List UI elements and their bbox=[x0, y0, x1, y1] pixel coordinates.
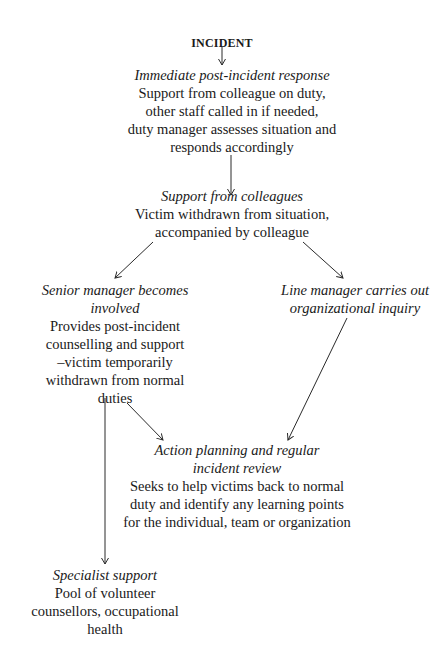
edge-senior-to-action bbox=[127, 403, 163, 440]
node-title-line: incident review bbox=[112, 459, 362, 477]
edge-colleagues-to-senior bbox=[115, 242, 153, 278]
edge-line-manager-to-action bbox=[288, 318, 347, 440]
root-node-incident: INCIDENT bbox=[172, 34, 272, 52]
node-text-line: accompanied by colleague bbox=[112, 223, 352, 241]
node-title-line: involved bbox=[20, 299, 210, 317]
node-text-line: duty manager assesses situation and bbox=[92, 120, 372, 138]
node-line-manager: Line manager carries out organizational … bbox=[275, 281, 435, 317]
node-text-line: for the individual, team or organization bbox=[112, 513, 362, 531]
node-text-line: counsellors, occupational bbox=[25, 602, 185, 620]
node-text-line: withdrawn from normal bbox=[20, 371, 210, 389]
node-title-line: Senior manager becomes bbox=[20, 281, 210, 299]
node-title-line: organizational inquiry bbox=[275, 299, 435, 317]
node-text-line: health bbox=[25, 620, 185, 638]
node-title-line: Line manager carries out bbox=[275, 281, 435, 299]
node-title: Specialist support bbox=[25, 566, 185, 584]
node-immediate-response: Immediate post-incident response Support… bbox=[92, 66, 372, 156]
node-text-line: counselling and support bbox=[20, 335, 210, 353]
root-label: INCIDENT bbox=[191, 36, 253, 50]
node-title: Immediate post-incident response bbox=[92, 66, 372, 84]
edge-colleagues-to-line-manager bbox=[303, 242, 343, 278]
node-action-planning: Action planning and regular incident rev… bbox=[112, 441, 362, 531]
node-text-line: Support from colleague on duty, bbox=[92, 84, 372, 102]
node-text-line: duty and identify any learning points bbox=[112, 495, 362, 513]
node-text-line: Seeks to help victims back to normal bbox=[112, 477, 362, 495]
node-text-line: Pool of volunteer bbox=[25, 584, 185, 602]
node-text-line: other staff called in if needed, bbox=[92, 102, 372, 120]
node-title: Support from colleagues bbox=[112, 187, 352, 205]
node-support-from-colleagues: Support from colleagues Victim withdrawn… bbox=[112, 187, 352, 241]
node-title-line: Action planning and regular bbox=[112, 441, 362, 459]
node-specialist-support: Specialist support Pool of volunteer cou… bbox=[25, 566, 185, 638]
node-text-line: duties bbox=[20, 389, 210, 407]
node-text-line: Victim withdrawn from situation, bbox=[112, 205, 352, 223]
node-text-line: –victim temporarily bbox=[20, 353, 210, 371]
node-text-line: Provides post-incident bbox=[20, 317, 210, 335]
node-text-line: responds accordingly bbox=[92, 138, 372, 156]
node-senior-manager: Senior manager becomes involved Provides… bbox=[20, 281, 210, 407]
